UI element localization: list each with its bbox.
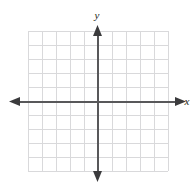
coordinate-plane-svg: y x: [0, 0, 195, 193]
y-axis-arrow-up-icon: [93, 25, 102, 36]
y-axis-arrow-down-icon: [93, 171, 102, 182]
y-axis-label: y: [94, 9, 100, 21]
coordinate-plane-figure: y x: [0, 0, 195, 193]
x-axis-label: x: [184, 95, 190, 107]
y-axis: [93, 25, 102, 182]
x-axis-arrow-left-icon: [9, 97, 20, 106]
